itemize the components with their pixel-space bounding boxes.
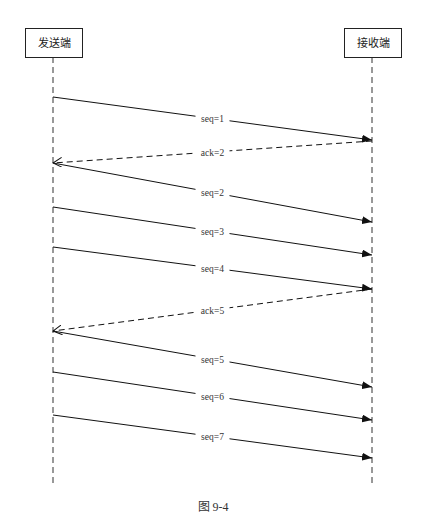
message-label: seq=7 [201, 432, 224, 442]
message-label: seq=1 [201, 114, 224, 124]
messages: seq=1ack=2seq=2seq=3seq=4ack=5seq=5seq=6… [53, 97, 372, 458]
message-seq-1: seq=1 [53, 97, 372, 140]
message-label: ack=5 [201, 306, 225, 316]
message-label: seq=3 [201, 227, 224, 237]
actor-receiver-label: 接收端 [357, 36, 390, 49]
message-seq-2: seq=2 [53, 163, 372, 222]
message-ack-2: ack=2 [53, 141, 372, 163]
sequence-diagram: 发送端 接收端 seq=1ack=2seq=2seq=3seq=4ack=5se… [0, 0, 427, 531]
message-label: ack=2 [201, 148, 225, 158]
actor-receiver: 接收端 [345, 29, 402, 58]
actor-sender-label: 发送端 [38, 36, 71, 49]
message-seq-7: seq=7 [53, 415, 372, 458]
message-seq-5: seq=5 [53, 331, 372, 387]
message-seq-3: seq=3 [53, 207, 372, 255]
message-seq-6: seq=6 [53, 372, 372, 420]
message-ack-5: ack=5 [53, 289, 372, 331]
message-seq-4: seq=4 [53, 247, 372, 289]
message-label: seq=2 [201, 188, 224, 198]
message-label: seq=5 [201, 355, 224, 365]
message-label: seq=4 [201, 264, 224, 274]
actor-sender: 发送端 [26, 29, 83, 58]
figure-caption: 图 9-4 [198, 500, 229, 514]
message-label: seq=6 [201, 392, 224, 402]
